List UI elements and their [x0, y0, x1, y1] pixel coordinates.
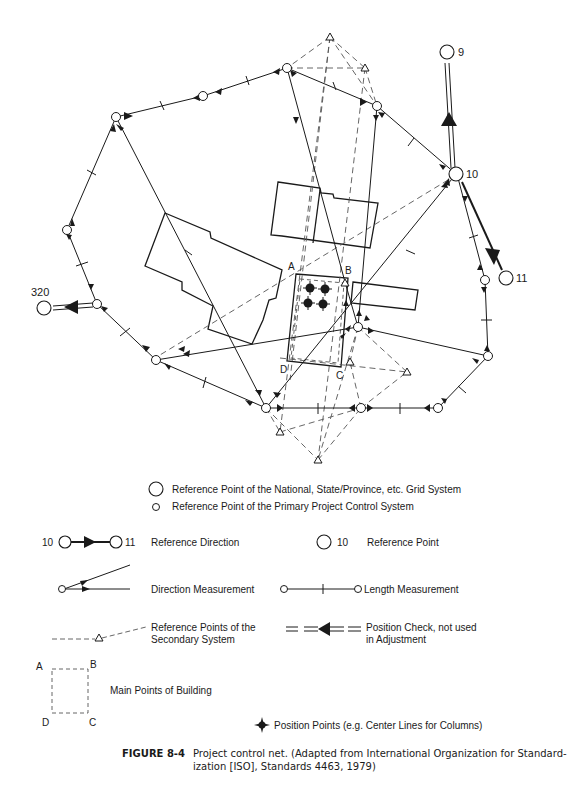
primary-point — [262, 404, 271, 413]
figure-caption: FIGURE 8-4 Project control net. (Adapted… — [122, 748, 567, 772]
primary-point — [357, 404, 366, 413]
legend-ref-point-num: 10 — [337, 537, 349, 548]
label-320: 320 — [31, 286, 49, 298]
legend-position-check-label-2: in Adjustment — [366, 634, 426, 645]
legend-secondary-label-2: Secondary System — [151, 634, 235, 645]
legend-position-check-icon — [286, 622, 361, 636]
legend-ref-dir-to: 11 — [125, 537, 136, 548]
position-point — [318, 282, 332, 296]
legend-ref-point-label: Reference Point — [367, 537, 439, 548]
control-net-diagram: 9 10 11 320 A B C D Reference Point of t… — [0, 0, 575, 790]
legend-main-B: B — [90, 659, 97, 670]
primary-point — [283, 64, 292, 73]
legend-position-check-label-1: Position Check, not used — [366, 622, 477, 633]
primary-point — [484, 352, 493, 361]
legend-grid-point-label: Reference Point of the National, State/P… — [172, 484, 461, 495]
legend-position-point-icon — [254, 717, 270, 733]
legend-position-points-label: Position Points (e.g. Center Lines for C… — [274, 720, 482, 731]
label-A: A — [288, 261, 295, 272]
legend-primary-point-label: Reference Point of the Primary Project C… — [172, 501, 414, 512]
primary-point — [152, 356, 161, 365]
legend-primary-point-icon — [153, 504, 160, 511]
position-point — [303, 281, 317, 295]
secondary-point — [326, 33, 334, 40]
grid-points — [37, 45, 513, 315]
primary-point — [481, 276, 490, 285]
label-9: 9 — [458, 46, 464, 58]
legend-ref-direction-label: Reference Direction — [151, 537, 239, 548]
grid-point-10 — [449, 167, 463, 181]
primary-point — [354, 323, 363, 332]
secondary-point — [346, 358, 354, 365]
grid-point-320 — [37, 301, 51, 315]
legend-grid-point-icon — [149, 482, 163, 496]
grid-point-9 — [440, 45, 454, 59]
caption-line-1: Project control net. (Adapted from Inter… — [193, 748, 567, 759]
legend-main-points-label: Main Points of Building — [110, 685, 212, 696]
label-B: B — [345, 265, 352, 276]
grid-point-11 — [499, 271, 513, 285]
building-west — [145, 213, 282, 344]
position-check-320 — [53, 300, 93, 314]
caption-line-2: ization [ISO], Standards 4463, 1979) — [193, 761, 376, 772]
label-D: D — [280, 364, 287, 375]
position-points — [301, 281, 332, 311]
primary-point — [373, 102, 382, 111]
legend-direction-label: Direction Measurement — [151, 584, 255, 595]
position-point — [316, 297, 330, 311]
legend-main-C: C — [89, 717, 96, 728]
label-C: C — [336, 370, 343, 381]
direction-arrows — [66, 68, 490, 412]
building-north — [271, 182, 378, 248]
primary-point — [434, 404, 443, 413]
primary-point — [63, 226, 72, 235]
primary-point — [199, 92, 208, 101]
primary-point — [112, 113, 121, 122]
position-check-9-10 — [441, 63, 457, 168]
legend-main-D: D — [42, 717, 49, 728]
legend-ref-dir-from: 10 — [42, 537, 54, 548]
primary-network — [67, 68, 502, 408]
label-10: 10 — [466, 168, 478, 180]
legend-ref-point-icon — [317, 535, 331, 549]
primary-point — [93, 300, 102, 309]
legend: Reference Point of the National, State/P… — [36, 482, 482, 733]
label-11: 11 — [516, 272, 527, 284]
legend-length-label: Length Measurement — [364, 584, 459, 595]
legend-direction-icon — [59, 586, 66, 593]
position-point — [301, 296, 315, 310]
legend-secondary-label-1: Reference Points of the — [151, 622, 256, 633]
legend-main-A: A — [36, 661, 43, 672]
figure-number: FIGURE 8-4 — [122, 748, 185, 759]
